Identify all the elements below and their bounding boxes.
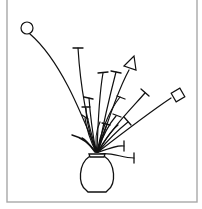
t-bar-cap-icon [98, 72, 108, 73]
stem [78, 48, 97, 152]
circle-flower-icon [21, 22, 33, 34]
vase-drawing [0, 0, 202, 209]
stem [30, 34, 97, 152]
vase-neck [89, 154, 105, 157]
triangle-flower-icon [124, 56, 136, 70]
square-flower-icon [171, 88, 185, 102]
t-bar-cap-icon [113, 114, 121, 117]
vase-body [80, 156, 113, 192]
stems-group [30, 34, 171, 163]
t-bar-cap-icon [141, 89, 149, 96]
